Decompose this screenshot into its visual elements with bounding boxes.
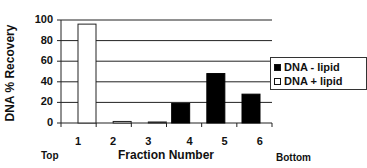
x-axis-label: Fraction Number (118, 148, 214, 162)
x-category-label: 5 (215, 135, 235, 147)
x-category-label: 6 (250, 135, 270, 147)
legend-item-dna-plus-lipid: DNA + lipid (274, 74, 363, 88)
legend: DNA - lipid DNA + lipid (270, 57, 367, 90)
legend-item-dna-minus-lipid: DNA - lipid (274, 60, 363, 74)
top-annotation: Top (41, 150, 59, 161)
black-swatch-icon (274, 64, 281, 71)
x-category-label: 1 (68, 135, 88, 147)
legend-label: DNA - lipid (284, 61, 340, 73)
bar-dna-minus-lipid (242, 94, 260, 123)
white-swatch-icon (274, 78, 281, 85)
y-tick-label: 60 (29, 54, 53, 66)
bottom-annotation: Bottom (276, 152, 311, 163)
x-category-label: 2 (103, 135, 123, 147)
y-tick-label: 20 (29, 95, 53, 107)
y-tick-label: 0 (29, 116, 53, 128)
legend-label: DNA + lipid (284, 75, 343, 87)
bar-dna-plus-lipid (113, 121, 131, 123)
y-axis-label-text: DNA % Recovery (3, 25, 17, 122)
x-category-label: 4 (180, 135, 200, 147)
bar-dna-minus-lipid (172, 103, 190, 123)
bar-dna-plus-lipid (148, 122, 166, 123)
y-axis-label: DNA % Recovery (2, 18, 18, 128)
bar-dna-minus-lipid (207, 74, 225, 123)
bar-dna-plus-lipid (78, 24, 96, 123)
x-category-label: 3 (138, 135, 158, 147)
y-tick-label: 80 (29, 34, 53, 46)
y-tick-label: 100 (29, 13, 53, 25)
y-tick-label: 40 (29, 75, 53, 87)
